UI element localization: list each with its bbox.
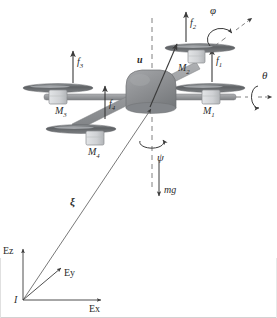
- inertial-frame: [23, 249, 101, 300]
- motor-2-label: M2: [178, 63, 190, 76]
- roll-rotation-arrow: [207, 28, 232, 46]
- rotor-2-motor: [188, 50, 205, 63]
- motor-1-label: M1: [203, 106, 215, 119]
- pitch-angle-label: θ: [262, 70, 267, 81]
- pitch-rotation-arrow: [251, 86, 259, 108]
- yaw-angle-label: ψ: [157, 152, 164, 163]
- weight-label: mg: [164, 185, 176, 195]
- rotor-3-motor: [49, 90, 67, 104]
- figure-border: [0, 258, 277, 318]
- frame-origin-label: I: [14, 295, 17, 305]
- force-3-label: f3: [77, 57, 83, 70]
- position-vector-label: ξ: [70, 196, 75, 207]
- axis-y-arrow: [23, 268, 61, 300]
- axis-x-label: Ex: [89, 304, 100, 314]
- vehicle-body: [126, 70, 176, 114]
- force-4-label: f4: [109, 99, 115, 112]
- force-2-label: f2: [190, 18, 196, 31]
- axis-z-label: Ez: [3, 246, 14, 256]
- motor-4-label: M4: [88, 147, 100, 160]
- force-1-label: f1: [216, 56, 222, 69]
- motor-3-label: M3: [55, 106, 67, 119]
- rotor-1-motor: [202, 90, 220, 104]
- axis-y-label: Ey: [64, 268, 75, 278]
- quadrotor-diagram: [0, 0, 277, 318]
- thrust-label: u: [137, 55, 143, 65]
- rotor-4-motor: [86, 131, 104, 145]
- rotor-4-disc: [46, 125, 116, 134]
- rotor-2: [165, 12, 235, 63]
- roll-angle-label: φ: [210, 5, 216, 16]
